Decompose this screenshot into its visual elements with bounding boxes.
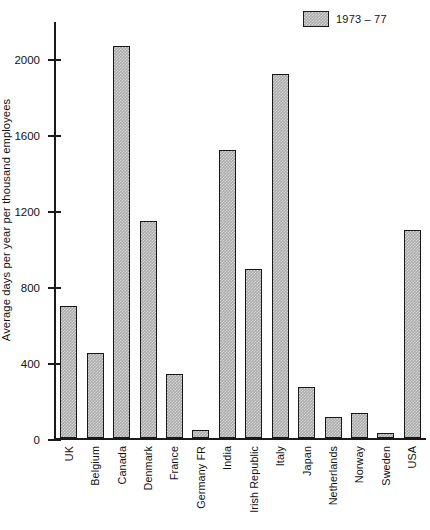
x-axis-label-france: France — [168, 446, 180, 480]
x-axis-label-belgium: Belgium — [89, 446, 101, 486]
x-label-slot-germany-fr: Germany FR — [188, 444, 214, 528]
bar-germany-fr[interactable] — [192, 430, 209, 439]
bar-slot-france — [161, 22, 187, 438]
x-label-slot-usa: USA — [399, 444, 425, 528]
bar-slot-uk — [56, 22, 82, 438]
x-label-slot-irish-republic: Irish Republic — [241, 444, 267, 528]
x-axis-label-germany-fr: Germany FR — [195, 446, 207, 509]
x-label-slot-denmark: Denmark — [135, 444, 161, 528]
bar-belgium[interactable] — [87, 353, 104, 439]
y-tick-label-1200: 1200 — [14, 206, 40, 218]
bar-uk[interactable] — [60, 306, 77, 438]
x-label-slot-italy: Italy — [267, 444, 293, 528]
bar-sweden[interactable] — [377, 433, 394, 439]
y-tick-label-800: 800 — [21, 282, 40, 294]
x-label-slot-japan: Japan — [293, 444, 319, 528]
x-axis-label-india: India — [221, 446, 233, 470]
bar-usa[interactable] — [404, 230, 421, 438]
x-label-slot-netherlands: Netherlands — [320, 444, 346, 528]
x-label-slot-france: France — [161, 444, 187, 528]
x-label-slot-india: India — [214, 444, 240, 528]
x-axis-label-netherlands: Netherlands — [327, 446, 339, 505]
x-axis-label-uk: UK — [63, 446, 75, 461]
bar-slot-irish-republic — [241, 22, 267, 438]
y-tick-label-0: 0 — [34, 434, 40, 446]
bar-netherlands[interactable] — [325, 417, 342, 439]
bar-slot-germany-fr — [188, 22, 214, 438]
bar-slot-india — [214, 22, 240, 438]
x-axis-label-usa: USA — [406, 446, 418, 469]
x-axis-line — [54, 438, 426, 440]
bar-denmark[interactable] — [140, 221, 157, 439]
bar-irish-republic[interactable] — [245, 269, 262, 438]
bar-slot-belgium — [82, 22, 108, 438]
x-axis-label-irish-republic: Irish Republic — [248, 446, 260, 513]
bar-slot-norway — [346, 22, 372, 438]
bar-group — [56, 22, 426, 438]
x-label-slot-norway: Norway — [346, 444, 372, 528]
bar-canada[interactable] — [113, 46, 130, 438]
y-tick-label-2000: 2000 — [14, 54, 40, 66]
bar-chart: 1973 – 77 Average days per year per thou… — [0, 0, 430, 530]
bar-slot-canada — [108, 22, 134, 438]
x-axis-label-italy: Italy — [274, 446, 286, 466]
plot-area: 0400800120016002000 — [54, 22, 426, 440]
bar-india[interactable] — [219, 150, 236, 439]
x-label-slot-sweden: Sweden — [373, 444, 399, 528]
y-tick-label-400: 400 — [21, 358, 40, 370]
x-label-slot-belgium: Belgium — [82, 444, 108, 528]
bar-italy[interactable] — [272, 74, 289, 439]
bar-slot-netherlands — [320, 22, 346, 438]
bar-norway[interactable] — [351, 413, 368, 439]
x-axis-labels: UKBelgiumCanadaDenmarkFranceGermany FRIn… — [56, 444, 426, 528]
bar-slot-denmark — [135, 22, 161, 438]
y-tick-0: 0 — [48, 439, 61, 441]
x-label-slot-uk: UK — [56, 444, 82, 528]
y-tick-label-1600: 1600 — [14, 130, 40, 142]
x-axis-label-japan: Japan — [301, 446, 313, 476]
x-axis-label-canada: Canada — [116, 446, 128, 484]
bar-slot-italy — [267, 22, 293, 438]
bar-japan[interactable] — [298, 387, 315, 438]
bar-slot-japan — [293, 22, 319, 438]
bar-slot-sweden — [373, 22, 399, 438]
x-axis-label-norway: Norway — [353, 446, 365, 483]
x-axis-label-sweden: Sweden — [380, 446, 392, 486]
y-axis-title: Average days per year per thousand emplo… — [0, 0, 16, 440]
x-axis-label-denmark: Denmark — [142, 446, 154, 491]
bar-slot-usa — [399, 22, 425, 438]
bar-france[interactable] — [166, 374, 183, 439]
x-label-slot-canada: Canada — [108, 444, 134, 528]
